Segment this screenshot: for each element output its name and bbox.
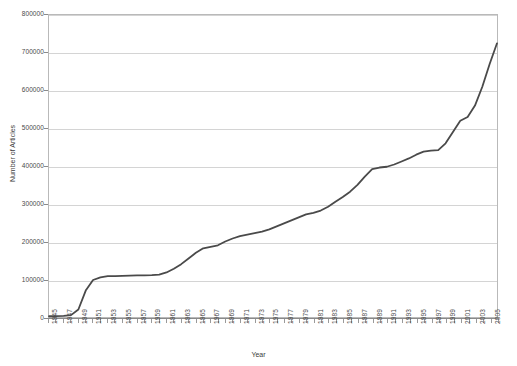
x-axis-tick-mark xyxy=(373,319,374,323)
x-axis-tick-label: 1955 xyxy=(125,309,132,324)
x-axis-tick-label: 1995 xyxy=(420,309,427,324)
x-axis-tick-label: 1997 xyxy=(435,309,442,324)
x-axis-tick-mark xyxy=(417,319,418,323)
y-axis-tick-label: 200000 xyxy=(0,238,44,245)
y-axis-tick-label: 700000 xyxy=(0,48,44,55)
x-axis-tick-mark xyxy=(432,319,433,323)
x-axis-tick-mark xyxy=(122,319,123,323)
y-axis-tick-mark xyxy=(44,14,48,15)
x-axis-tick-mark xyxy=(461,319,462,323)
x-axis-tick-label: 2005 xyxy=(494,309,501,324)
x-axis-tick-mark xyxy=(476,319,477,323)
x-axis-tick-label: 1965 xyxy=(199,309,206,324)
x-axis-tick-label: 1949 xyxy=(81,309,88,324)
x-axis-tick-mark xyxy=(107,319,108,323)
x-axis-tick-label: 1991 xyxy=(390,309,397,324)
x-axis-tick-label: 2001 xyxy=(464,309,471,324)
chart-screenshot: 0100000200000300000400000500000600000700… xyxy=(0,0,517,366)
x-axis-tick-mark xyxy=(314,319,315,323)
y-axis-tick-label: 800000 xyxy=(0,10,44,17)
x-axis-tick-mark xyxy=(63,319,64,323)
y-axis-tick-label: 500000 xyxy=(0,124,44,131)
y-axis-tick-mark xyxy=(44,280,48,281)
x-axis-tick-mark xyxy=(210,319,211,323)
x-axis-tick-mark xyxy=(387,319,388,323)
y-axis-tick-mark xyxy=(44,204,48,205)
y-axis-tick-label: 600000 xyxy=(0,86,44,93)
x-axis-tick-label: 1971 xyxy=(243,309,250,324)
x-axis-tick-label: 2003 xyxy=(479,309,486,324)
plot-area xyxy=(48,14,498,318)
x-axis-tick-label: 1961 xyxy=(169,309,176,324)
y-axis-tick-mark xyxy=(44,90,48,91)
x-axis-tick-label: 1969 xyxy=(228,309,235,324)
x-axis-tick-mark xyxy=(299,319,300,323)
x-axis-tick-label: 1987 xyxy=(361,309,368,324)
y-axis-tick-mark xyxy=(44,242,48,243)
x-axis-tick-mark xyxy=(196,319,197,323)
x-axis-tick-label: 1975 xyxy=(272,309,279,324)
cumulative-articles-line xyxy=(49,43,497,316)
x-axis-tick-label: 1947 xyxy=(66,309,73,324)
y-axis-tick-label: 0 xyxy=(0,314,44,321)
x-axis-tick-mark xyxy=(402,319,403,323)
x-axis-tick-label: 1967 xyxy=(213,309,220,324)
x-axis-tick-label: 1959 xyxy=(154,309,161,324)
x-axis-tick-mark xyxy=(240,319,241,323)
x-axis-tick-mark xyxy=(255,319,256,323)
y-axis-tick-label: 400000 xyxy=(0,162,44,169)
x-axis-tick-label: 1989 xyxy=(376,309,383,324)
y-axis-tick-mark xyxy=(44,166,48,167)
x-axis-title: Year xyxy=(0,351,517,358)
y-axis-tick-labels: 0100000200000300000400000500000600000700… xyxy=(0,0,44,366)
y-axis-tick-mark xyxy=(44,52,48,53)
x-axis-tick-mark xyxy=(269,319,270,323)
y-axis-tick-mark xyxy=(44,128,48,129)
x-axis-tick-label: 1945 xyxy=(51,309,58,324)
y-axis-tick-mark xyxy=(44,318,48,319)
x-axis-tick-mark xyxy=(491,319,492,323)
x-axis-tick-label: 1993 xyxy=(405,309,412,324)
x-axis-tick-mark xyxy=(446,319,447,323)
y-axis-tick-label: 100000 xyxy=(0,276,44,283)
x-axis-tick-mark xyxy=(78,319,79,323)
x-axis-tick-label: 1953 xyxy=(110,309,117,324)
x-axis-tick-label: 1973 xyxy=(258,309,265,324)
x-axis-tick-label: 1951 xyxy=(95,309,102,324)
x-axis-tick-label: 1963 xyxy=(184,309,191,324)
y-axis-title: Number of Articles xyxy=(9,114,16,194)
x-axis-tick-mark xyxy=(48,319,49,323)
x-axis-tick-label: 1999 xyxy=(449,309,456,324)
y-axis-tick-label: 300000 xyxy=(0,200,44,207)
x-axis-tick-mark xyxy=(284,319,285,323)
x-axis-tick-label: 1985 xyxy=(346,309,353,324)
x-axis-tick-mark xyxy=(328,319,329,323)
x-axis-tick-label: 1983 xyxy=(331,309,338,324)
x-axis-tick-mark xyxy=(181,319,182,323)
line-series-svg xyxy=(49,15,497,317)
x-axis-tick-mark xyxy=(92,319,93,323)
x-axis-tick-mark xyxy=(358,319,359,323)
x-axis-tick-mark xyxy=(166,319,167,323)
x-axis-tick-label: 1981 xyxy=(317,309,324,324)
x-axis-tick-label: 1977 xyxy=(287,309,294,324)
x-axis-tick-mark xyxy=(151,319,152,323)
x-axis-tick-mark xyxy=(137,319,138,323)
x-axis-tick-mark xyxy=(343,319,344,323)
x-axis-tick-label: 1979 xyxy=(302,309,309,324)
x-axis-tick-label: 1957 xyxy=(140,309,147,324)
x-axis-tick-mark xyxy=(225,319,226,323)
